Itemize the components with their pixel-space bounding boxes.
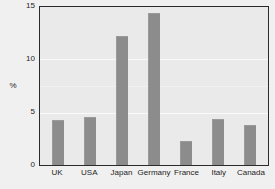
bar-slot-usa: [74, 7, 106, 165]
bar-usa[interactable]: [84, 117, 96, 165]
bar-japan[interactable]: [116, 36, 128, 165]
bar-series: [40, 7, 268, 165]
x-tick-italy: Italy: [203, 168, 235, 177]
x-tick-canada: Canada: [235, 168, 267, 177]
x-axis-tick-labels: UKUSAJapanGermanyFranceItalyCanada: [39, 168, 269, 177]
bar-slot-japan: [106, 7, 138, 165]
bar-italy[interactable]: [212, 119, 224, 165]
x-tick-usa: USA: [73, 168, 105, 177]
bar-germany[interactable]: [148, 13, 160, 165]
x-tick-uk: UK: [41, 168, 73, 177]
y-tick-10: 10: [20, 55, 35, 63]
y-tick-0: 0: [20, 161, 35, 169]
bar-chart-figure: % 15 10 5 0 UKUSAJapanGermanyFranceItaly…: [0, 0, 275, 189]
bar-slot-france: [170, 7, 202, 165]
bar-uk[interactable]: [52, 120, 64, 165]
x-tick-germany: Germany: [138, 168, 171, 177]
bar-slot-uk: [42, 7, 74, 165]
y-tick-5: 5: [20, 108, 35, 116]
x-tick-france: France: [170, 168, 202, 177]
bar-slot-italy: [202, 7, 234, 165]
bar-slot-canada: [234, 7, 266, 165]
x-tick-japan: Japan: [105, 168, 137, 177]
bar-slot-germany: [138, 7, 170, 165]
y-axis-tick-labels: 15 10 5 0: [20, 0, 35, 189]
plot-area: [39, 6, 269, 166]
y-tick-15: 15: [20, 2, 35, 10]
bar-canada[interactable]: [244, 125, 256, 165]
bar-france[interactable]: [180, 141, 192, 165]
